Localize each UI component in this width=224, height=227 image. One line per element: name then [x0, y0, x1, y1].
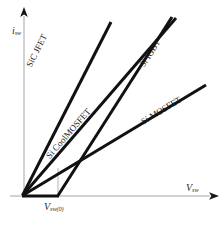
threshold-subscript: sw(0)	[50, 205, 63, 212]
y-axis-arrow-icon	[20, 7, 28, 17]
y-axis-subscript: sw	[15, 29, 21, 36]
x-axis-subscript: sw	[192, 186, 198, 193]
x-axis-label: Vsw	[186, 183, 198, 194]
y-axis-label: isw	[12, 26, 21, 37]
x-axis-arrow-icon	[209, 192, 219, 200]
threshold-voltage-label: Vsw(0)	[44, 202, 63, 213]
